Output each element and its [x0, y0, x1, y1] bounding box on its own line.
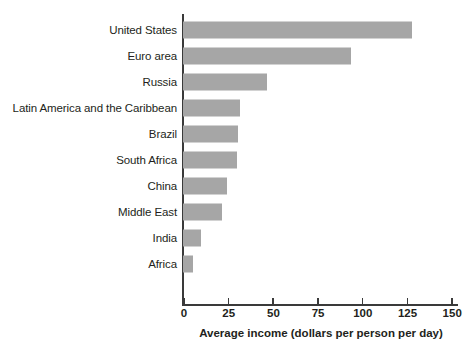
x-tick-label: 0 — [181, 307, 187, 319]
x-tick-mark — [317, 298, 319, 305]
bar — [183, 126, 238, 143]
bar — [183, 48, 351, 65]
x-tick-mark — [272, 298, 274, 305]
x-tick-label: 50 — [267, 307, 280, 319]
category-label: China — [147, 180, 177, 192]
category-label: Middle East — [118, 206, 177, 218]
bar-row: Middle East — [0, 199, 465, 225]
bar-row: Euro area — [0, 43, 465, 69]
bar-row: India — [0, 225, 465, 251]
category-label: Latin America and the Caribbean — [13, 102, 177, 114]
x-tick-label: 150 — [443, 307, 462, 319]
bar-row: Russia — [0, 69, 465, 95]
bar-row: Africa — [0, 251, 465, 277]
bar-row: China — [0, 173, 465, 199]
x-tick-label: 125 — [398, 307, 417, 319]
bar — [183, 74, 267, 91]
x-tick-label: 100 — [353, 307, 372, 319]
bar-row: United States — [0, 17, 465, 43]
category-label: Euro area — [127, 50, 177, 62]
x-tick-mark — [451, 298, 453, 305]
category-label: Africa — [148, 258, 177, 270]
x-tick-label: 75 — [312, 307, 325, 319]
x-axis-line — [182, 304, 458, 306]
bar — [183, 178, 227, 195]
x-tick-mark — [362, 298, 364, 305]
bar — [183, 230, 201, 247]
x-tick-mark — [407, 298, 409, 305]
bar-row: South Africa — [0, 147, 465, 173]
plot-area: United StatesEuro areaRussiaLatin Americ… — [0, 0, 465, 358]
bar-row: Brazil — [0, 121, 465, 147]
x-tick-label: 25 — [222, 307, 235, 319]
category-label: Brazil — [149, 128, 177, 140]
bar-row: Latin America and the Caribbean — [0, 95, 465, 121]
bar — [183, 204, 222, 221]
category-label: South Africa — [116, 154, 177, 166]
x-tick-mark — [183, 298, 185, 305]
bar-chart: United StatesEuro areaRussiaLatin Americ… — [0, 0, 465, 358]
bar — [183, 152, 237, 169]
x-tick-mark — [228, 298, 230, 305]
category-label: Russia — [142, 76, 177, 88]
category-label: United States — [109, 24, 177, 36]
x-axis-title: Average income (dollars per person per d… — [183, 327, 459, 339]
category-label: India — [153, 232, 177, 244]
cut-off-caption — [8, 349, 458, 356]
bar — [183, 100, 240, 117]
bar — [183, 22, 412, 39]
bar — [183, 256, 193, 273]
